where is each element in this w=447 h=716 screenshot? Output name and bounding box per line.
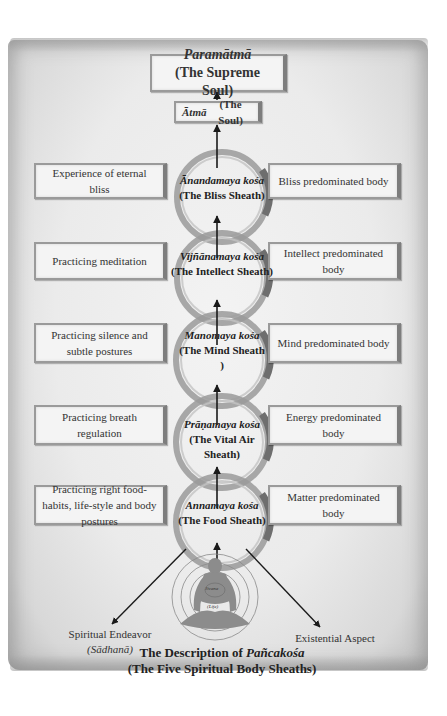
sheath-label-intellect: Vijñānamaya kośa (The Intellect Sheath) — [162, 249, 282, 279]
figure-inner-label-jivana: Jivana — [205, 586, 218, 591]
paramatma-english: (The Supreme Soul) — [158, 64, 277, 100]
right-box-text: Bliss predominated body — [279, 173, 389, 189]
right-box-text: Energy predominated body — [276, 409, 391, 441]
sheath-sanskrit: Ānandamaya kośa — [162, 173, 282, 188]
right-box-mind: Mind predominated body — [268, 323, 401, 363]
left-box-text: Practicing breath regulation — [42, 409, 157, 441]
left-box-vital-air: Practicing breath regulation — [34, 405, 167, 445]
left-box-food: Practicing right food-habits, life-style… — [34, 485, 167, 525]
sheath-sanskrit: Prāṇamaya kośa — [172, 417, 272, 432]
caption-line-2: (The Five Spiritual Body Sheaths) — [122, 661, 322, 677]
left-box-intellect: Practicing meditation — [34, 242, 167, 280]
left-box-text: Practicing meditation — [52, 253, 146, 269]
right-box-bliss: Bliss predominated body — [268, 163, 401, 199]
left-box-text: Experience of eternal bliss — [42, 165, 157, 197]
existential-aspect-label: Existential Aspect — [290, 632, 380, 644]
sheath-sanskrit: Annamaya kośa — [162, 498, 282, 513]
paramatma-box: Paramātmā (The Supreme Soul) — [150, 54, 287, 92]
right-box-text: Matter predominated body — [276, 489, 391, 521]
spiritual-endeavor-text: Spiritual Endeavor — [55, 628, 165, 640]
sheath-label-mind: Manomaya kośa (The Mind Sheath ) — [177, 328, 267, 373]
right-box-text: Mind predominated body — [278, 335, 390, 351]
sheath-label-food: Annamaya kośa (The Food Sheath) — [162, 498, 282, 528]
sheath-label-bliss: Ānandamaya kośa (The Bliss Sheath) — [162, 173, 282, 203]
sheath-sanskrit: Vijñānamaya kośa — [162, 249, 282, 264]
atma-english: (The Soul) — [209, 96, 252, 128]
sheath-english: (The Bliss Sheath) — [179, 189, 265, 201]
left-box-text: Practicing right food-habits, life-style… — [42, 481, 157, 529]
left-box-mind: Practicing silence and subtle postures — [34, 323, 167, 363]
meditating-figure-icon — [172, 554, 258, 640]
sheath-english: (The Intellect Sheath) — [171, 265, 273, 277]
right-box-food: Matter predominated body — [268, 485, 401, 525]
right-box-text: Intellect predominated body — [276, 245, 391, 277]
right-box-intellect: Intellect predominated body — [268, 242, 401, 280]
paramatma-sanskrit: Paramātmā — [184, 46, 252, 64]
existential-aspect-text: Existential Aspect — [290, 632, 380, 644]
left-box-bliss: Experience of eternal bliss — [34, 163, 167, 199]
caption-prefix: The Description of — [139, 645, 246, 660]
sheath-sanskrit: Manomaya kośa — [177, 328, 267, 343]
figure-inner-label-life: (Life) — [207, 604, 218, 609]
sheath-english: (The Mind Sheath ) — [179, 344, 265, 371]
sheath-english: (The Food Sheath) — [178, 514, 265, 526]
sheath-label-vital-air: Prāṇamaya kośa (The Vital Air Sheath) — [172, 417, 272, 462]
right-box-vital-air: Energy predominated body — [268, 405, 401, 445]
atma-box: Ātmā (The Soul) — [174, 101, 262, 123]
diagram-caption: The Description of Pañcakośa (The Five S… — [122, 645, 322, 677]
caption-line-1: The Description of Pañcakośa — [122, 645, 322, 661]
atma-sanskrit: Ātmā — [182, 104, 206, 120]
caption-italic-term: Pañcakośa — [246, 645, 305, 660]
sheath-english: (The Vital Air Sheath) — [189, 433, 254, 460]
left-box-text: Practicing silence and subtle postures — [42, 327, 157, 359]
